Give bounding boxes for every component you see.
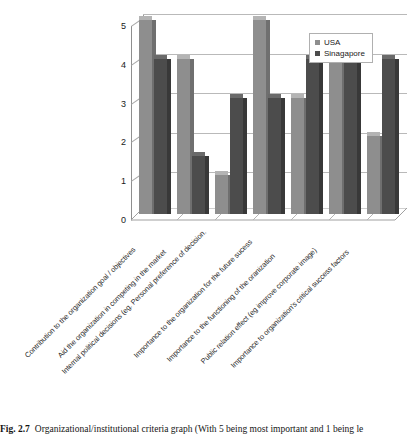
figure-caption: Fig. 2.7Organizational/institutional cri… (0, 424, 411, 434)
figure-caption-text: Organizational/institutional criteria gr… (35, 424, 363, 434)
x-label-7: Importance to organization's critical su… (229, 248, 351, 370)
x-axis-category-labels: Contribution to the organization goal / … (0, 0, 411, 439)
figure-container: 5 4 3 2 1 0 (0, 0, 411, 439)
figure-number: Fig. 2.7 (0, 424, 30, 434)
x-label-1: Contribution to the organization goal / … (23, 245, 137, 359)
